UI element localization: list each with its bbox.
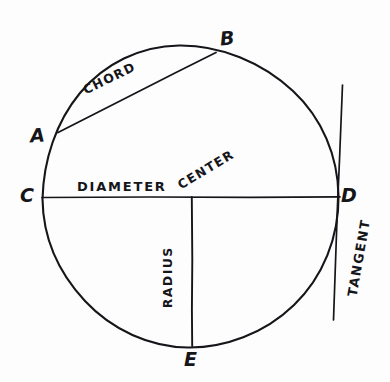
point-label-e: E <box>184 350 197 369</box>
point-label-b: B <box>219 28 235 48</box>
term-label-radius: RADIUS <box>162 246 175 308</box>
diagram-canvas <box>0 0 390 382</box>
circle-diagram: A B C D E CHORD DIAMETER CENTER RADIUS T… <box>0 0 390 382</box>
radius-line <box>192 197 193 346</box>
term-label-diameter: DIAMETER <box>77 180 167 193</box>
point-label-d: D <box>341 186 357 205</box>
point-label-c: C <box>20 186 34 205</box>
point-label-a: A <box>29 126 45 146</box>
